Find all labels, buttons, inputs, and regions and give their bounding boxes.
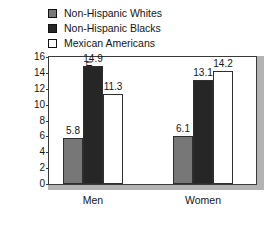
bar <box>103 94 123 184</box>
y-axis-tick-mark <box>46 73 49 74</box>
bar <box>193 80 213 184</box>
legend-label-mexican-americans: Mexican Americans <box>64 38 155 49</box>
chart-frame: Percent of Population 0246810121416 5.81… <box>48 56 264 190</box>
y-axis-tick-label: 8 <box>15 116 45 126</box>
y-axis-tick-mark <box>46 136 49 137</box>
plot-area: Percent of Population 0246810121416 5.81… <box>48 56 257 185</box>
legend-item: Non-Hispanic Blacks <box>48 21 228 35</box>
bar <box>213 71 233 184</box>
y-axis-tick-label: 2 <box>15 163 45 173</box>
bar-value-label: 11.3 <box>99 82 127 92</box>
y-axis-tick-mark <box>46 168 49 169</box>
y-axis-tick-label: 14 <box>15 68 45 78</box>
y-axis-tick-label: 6 <box>15 131 45 141</box>
bar <box>63 138 83 184</box>
bar-value-label: 14.9 <box>79 54 107 64</box>
y-axis-tick-mark <box>46 57 49 58</box>
bar <box>173 136 193 184</box>
y-axis-tick-mark <box>46 105 49 106</box>
y-axis-tick-label: 4 <box>15 147 45 157</box>
x-axis-category-label: Women <box>163 195 243 206</box>
legend-swatch-non-hispanic-whites <box>48 9 57 18</box>
bar-value-label: 14.2 <box>209 59 237 69</box>
y-axis-tick-mark <box>46 184 49 185</box>
chart-legend: Non-Hispanic Whites Non-Hispanic Blacks … <box>48 6 228 51</box>
legend-label-non-hispanic-whites: Non-Hispanic Whites <box>64 8 162 19</box>
y-axis-tick-label: 16 <box>15 52 45 62</box>
y-axis-tick-label: 12 <box>15 84 45 94</box>
legend-label-non-hispanic-blacks: Non-Hispanic Blacks <box>64 23 161 34</box>
legend-item: Mexican Americans <box>48 36 228 50</box>
x-axis-category-label: Men <box>53 195 133 206</box>
y-axis-tick-mark <box>46 121 49 122</box>
y-axis-tick-mark <box>46 89 49 90</box>
y-axis-tick-mark <box>46 152 49 153</box>
y-axis-tick-label: 10 <box>15 100 45 110</box>
y-axis-tick-label: 0 <box>15 179 45 189</box>
legend-swatch-mexican-americans <box>48 39 57 48</box>
legend-swatch-non-hispanic-blacks <box>48 24 57 33</box>
legend-item: Non-Hispanic Whites <box>48 6 228 20</box>
